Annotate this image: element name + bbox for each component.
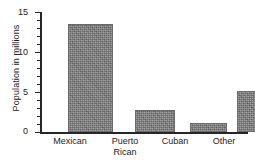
y-tick-label-0: 0 [23,127,28,136]
y-tick-minor-8 [37,68,40,69]
bar-puerto-rican [135,110,175,132]
y-tick-minor-12 [37,36,40,37]
y-tick-major-10: 10 [35,52,40,53]
y-tick-minor-11 [37,44,40,45]
y-axis-title: Population in millions [11,3,21,133]
x-tick-label-other: Other [196,136,252,147]
y-tick-minor-1 [37,124,40,125]
y-axis-line [40,12,42,133]
y-tick-minor-7 [37,76,40,77]
y-tick-minor-13 [37,28,40,29]
y-tick-major-5: 5 [35,92,40,93]
bar-other [237,91,255,132]
y-tick-minor-4 [37,100,40,101]
x-axis-line [40,132,248,134]
plot-area: 15 10 5 0 [40,12,248,133]
y-tick-minor-6 [37,84,40,85]
x-tick-label-mexican: Mexican [39,136,101,147]
y-tick-major-15: 15 [35,12,40,13]
bar-cuban [190,123,227,132]
y-tick-label-15: 15 [18,8,28,17]
y-tick-label-10: 10 [18,48,28,57]
y-tick-minor-2 [37,116,40,117]
y-tick-major-0: 0 [35,132,40,133]
y-tick-label-5: 5 [23,88,28,97]
y-tick-minor-9 [37,60,40,61]
y-tick-minor-3 [37,108,40,109]
bar-mexican [68,24,113,132]
y-tick-minor-14 [37,20,40,21]
bar-chart: Population in millions 15 10 5 0 [0,0,255,162]
